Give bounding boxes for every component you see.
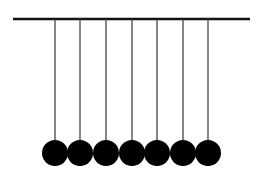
pendulum-ball — [195, 140, 221, 166]
pendulum-ball — [170, 140, 196, 166]
pendulum-ball — [144, 140, 170, 166]
pendulum-ball — [42, 140, 68, 166]
pendulum-ball — [93, 140, 119, 166]
pendulum-ball — [119, 140, 145, 166]
pendulum-ball — [67, 140, 93, 166]
newtons-cradle-diagram — [0, 0, 266, 179]
